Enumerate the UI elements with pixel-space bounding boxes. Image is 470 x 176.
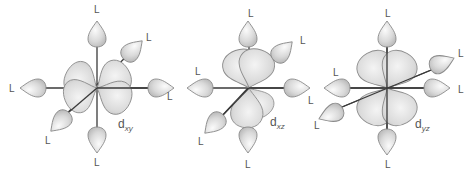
ligand-label: L	[245, 159, 251, 170]
ligand-label: L	[308, 95, 314, 106]
ligand-label: L	[167, 91, 173, 102]
panel-dxy: L L L L L L dxy	[9, 4, 174, 168]
orbital-label-dxy: dxy	[118, 117, 134, 133]
ligand-label: L	[198, 136, 204, 147]
ligand-label: L	[458, 48, 464, 59]
ligand-label: L	[195, 66, 201, 77]
panel-dyz: L L L L L L dyz	[314, 8, 464, 170]
ligand-label: L	[9, 83, 15, 94]
ligand-left	[20, 79, 46, 97]
ligand-top	[88, 21, 106, 47]
orbital-diagram: L L L L L L dxy	[0, 0, 470, 176]
orbital-label-dyz: dyz	[415, 117, 430, 133]
panel-dxz: L L L L L L dxz	[187, 8, 314, 170]
ligand-label: L	[146, 32, 152, 43]
ligand-label: L	[300, 35, 306, 46]
orbital-label-dxz: dxz	[270, 115, 285, 131]
ligand-label: L	[94, 4, 100, 15]
ligand-label: L	[458, 84, 464, 95]
ligand-label: L	[385, 159, 391, 170]
orbital-lobes-dxy	[59, 55, 137, 119]
ligand-label: L	[333, 67, 339, 78]
ligand-label: L	[248, 8, 254, 19]
ligand-label: L	[385, 8, 391, 19]
ligand-bottom	[88, 127, 106, 153]
ligand-label: L	[314, 120, 320, 131]
ligand-label: L	[45, 135, 51, 146]
ligand-label: L	[94, 157, 100, 168]
